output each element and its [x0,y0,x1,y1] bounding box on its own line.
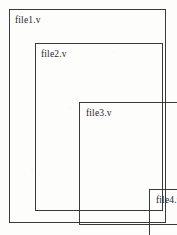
nested-box-file2: file2.v file3.v file4.v [35,43,163,211]
box-label-file3: file3.v [86,108,112,119]
box-label-file2: file2.v [41,49,67,60]
nested-box-file4: file4.v [149,189,177,235]
nested-box-file3: file3.v file4.v [79,102,177,225]
box-label-file1: file1.v [15,15,41,26]
diagram-canvas: file1.v file2.v file3.v file4.v [0,0,177,235]
nested-box-file1: file1.v file2.v file3.v file4.v [9,9,166,223]
box-label-file4: file4.v [156,195,177,206]
